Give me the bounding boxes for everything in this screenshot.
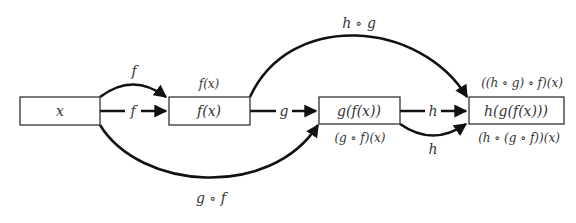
edge-g-straight-label: g [280, 103, 289, 119]
node-fx-label: f(x) [196, 103, 221, 119]
node-gfx-label: g(f(x)) [337, 103, 381, 119]
edge-g-compose-f-label: g ∘ f [196, 190, 229, 206]
edge-f-arc-label: f [130, 63, 139, 79]
node-gfx-below: (g ∘ f)(x) [334, 131, 385, 145]
composition-diagram: x f(x) g(f(x)) h(g(f(x))) f(x) (g ∘ f)(x… [0, 0, 576, 223]
edge-h-compose-g-label: h ∘ g [342, 15, 376, 31]
edge-h-arc-label: h [428, 141, 437, 157]
node-fx-above: f(x) [198, 77, 220, 91]
edge-h-arc [400, 124, 466, 136]
node-hgfx-label: h(g(f(x))) [484, 103, 548, 119]
edge-h-straight-label: h [428, 103, 437, 119]
node-x-label: x [56, 103, 64, 119]
edge-g-compose-f-arc [100, 125, 318, 178]
edge-f-arc [100, 85, 166, 98]
node-hgfx-above: ((h ∘ g) ∘ f)(x) [481, 76, 563, 90]
edge-h-compose-g-arc [250, 35, 467, 97]
node-hgfx-below: (h ∘ (g ∘ f))(x) [478, 131, 560, 145]
